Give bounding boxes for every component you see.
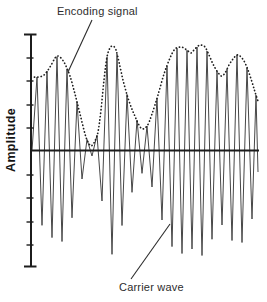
encoding-leader-line bbox=[68, 20, 92, 72]
carrier-leader-line bbox=[131, 224, 170, 279]
diagram-canvas bbox=[0, 0, 267, 302]
encoding-signal-label: Encoding signal bbox=[57, 5, 138, 17]
amplitude-axis-label: Amplitude bbox=[4, 100, 18, 180]
am-modulation-diagram: Encoding signal Carrier wave Amplitude bbox=[0, 0, 267, 302]
carrier-wave-label: Carrier wave bbox=[119, 281, 184, 293]
